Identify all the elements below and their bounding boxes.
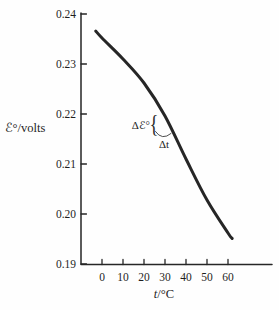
y-axis-symbol: ℰ° [5, 121, 18, 135]
y-axis-label: ℰ°/volts [5, 121, 45, 135]
y-tick-label: 0.22 [34, 107, 76, 121]
x-axis-unit: /°C [157, 287, 174, 301]
y-tick-label: 0.20 [34, 207, 76, 221]
emf-temperature-chart: 0.24 0.23 0.22 0.21 0.20 0.19 0 10 20 30… [0, 0, 279, 310]
y-tick-label: 0.21 [34, 157, 76, 171]
curly-brace-icon: { [150, 111, 159, 136]
x-tick-label: 60 [213, 270, 243, 284]
x-axis-label: t/°C [140, 287, 188, 301]
delta-t-annotation: Δt [149, 137, 179, 151]
y-tick-label: 0.23 [34, 57, 76, 71]
y-tick-label: 0.19 [34, 257, 76, 271]
delta-emf-annotation: Δℰ° [116, 118, 150, 132]
y-tick-label: 0.24 [34, 7, 76, 21]
y-axis-unit: /volts [18, 121, 46, 135]
